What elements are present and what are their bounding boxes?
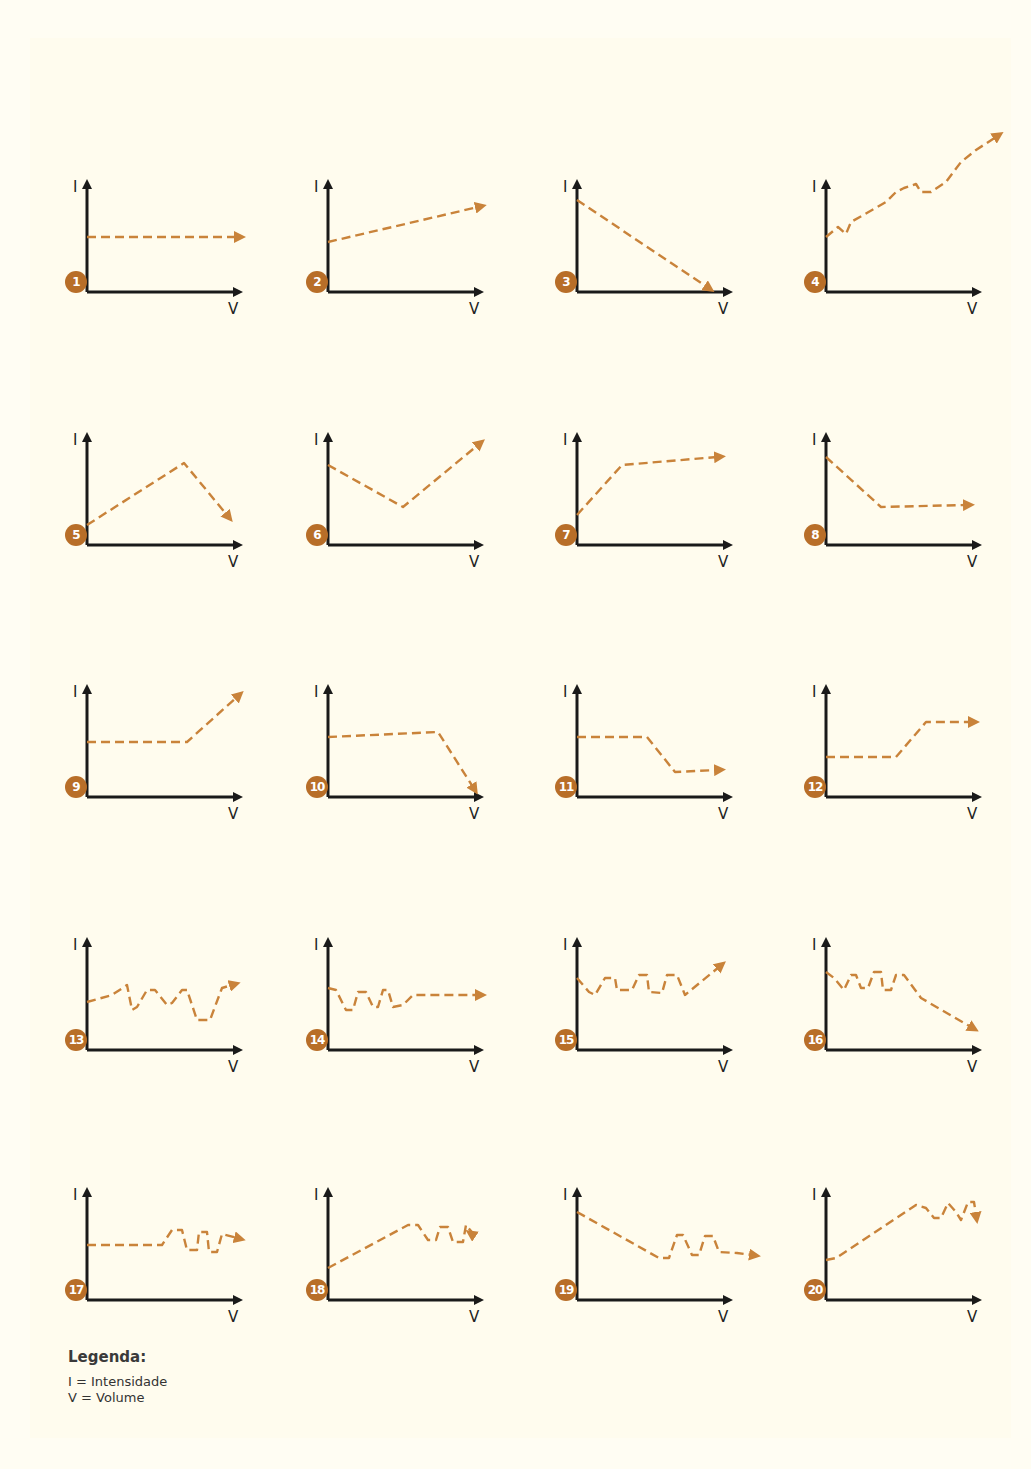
diagram-number-badge: 14: [306, 1029, 328, 1051]
diagram-panel-16: IV16: [786, 870, 1006, 1090]
intensity-curve: [328, 207, 478, 242]
diagram-number-badge: 12: [804, 776, 826, 798]
y-axis-label: I: [314, 938, 318, 953]
diagram-svg: [537, 112, 757, 332]
diagram-panel-2: IV2: [288, 112, 508, 332]
intensity-curve: [328, 988, 478, 1010]
diagram-panel-5: IV5: [47, 365, 267, 585]
legend: Legenda: I = Intensidade V = Volume: [68, 1348, 167, 1406]
y-axis-label: I: [73, 180, 77, 195]
diagram-number-badge: 1: [65, 271, 87, 293]
intensity-curve: [577, 1212, 752, 1258]
y-axis-label: I: [314, 685, 318, 700]
y-axis-label: I: [563, 433, 567, 448]
diagram-number-badge: 8: [804, 524, 826, 546]
x-axis-label: V: [967, 1060, 977, 1075]
y-axis-label: I: [314, 180, 318, 195]
diagram-number-badge: 18: [306, 1279, 328, 1301]
diagram-svg: [288, 365, 508, 585]
diagram-panel-14: IV14: [288, 870, 508, 1090]
diagram-number-badge: 7: [555, 524, 577, 546]
intensity-curve: [577, 457, 717, 515]
diagram-svg: [537, 365, 757, 585]
diagram-number-badge: 10: [306, 776, 328, 798]
y-axis-label: I: [73, 938, 77, 953]
diagram-panel-20: IV20: [786, 1120, 1006, 1340]
intensity-curve: [826, 457, 966, 507]
legend-item-volume: V = Volume: [68, 1390, 167, 1406]
x-axis-label: V: [469, 1060, 479, 1075]
diagram-panel-7: IV7: [537, 365, 757, 585]
legend-title: Legenda:: [68, 1348, 167, 1366]
y-axis-label: I: [73, 685, 77, 700]
intensity-curve: [577, 737, 717, 772]
y-axis-label: I: [73, 1188, 77, 1203]
intensity-curve: [577, 967, 719, 995]
x-axis-label: V: [967, 1310, 977, 1325]
diagram-number-badge: 3: [555, 271, 577, 293]
diagram-svg: [47, 870, 267, 1090]
y-axis-label: I: [812, 433, 816, 448]
x-axis-label: V: [228, 302, 238, 317]
diagram-panel-9: IV9: [47, 617, 267, 837]
diagram-svg: [288, 870, 508, 1090]
y-axis-label: I: [563, 1188, 567, 1203]
intensity-curve: [826, 972, 971, 1027]
diagram-svg: [786, 112, 1006, 332]
intensity-curve: [826, 722, 971, 757]
intensity-curve: [826, 1202, 976, 1260]
diagram-svg: [47, 1120, 267, 1340]
intensity-curve: [577, 200, 707, 287]
y-axis-label: I: [812, 938, 816, 953]
intensity-curve: [87, 697, 237, 742]
diagram-svg: [288, 1120, 508, 1340]
diagram-panel-6: IV6: [288, 365, 508, 585]
x-axis-label: V: [469, 807, 479, 822]
diagram-number-badge: 13: [65, 1029, 87, 1051]
diagram-number-badge: 15: [555, 1029, 577, 1051]
diagram-panel-3: IV3: [537, 112, 757, 332]
diagram-svg: [47, 617, 267, 837]
diagram-panel-17: IV17: [47, 1120, 267, 1340]
diagram-number-badge: 19: [555, 1279, 577, 1301]
y-axis-label: I: [314, 433, 318, 448]
diagram-svg: [47, 112, 267, 332]
x-axis-label: V: [967, 807, 977, 822]
intensity-curve: [826, 137, 996, 237]
diagram-number-badge: 16: [804, 1029, 826, 1051]
diagram-panel-13: IV13: [47, 870, 267, 1090]
intensity-curve: [328, 1225, 476, 1268]
x-axis-label: V: [228, 555, 238, 570]
diagram-panel-12: IV12: [786, 617, 1006, 837]
y-axis-label: I: [73, 433, 77, 448]
y-axis-label: I: [314, 1188, 318, 1203]
x-axis-label: V: [469, 302, 479, 317]
diagram-svg: [537, 870, 757, 1090]
x-axis-label: V: [718, 807, 728, 822]
y-axis-label: I: [812, 685, 816, 700]
x-axis-label: V: [469, 555, 479, 570]
y-axis-label: I: [563, 938, 567, 953]
diagram-number-badge: 4: [804, 271, 826, 293]
intensity-curve: [328, 732, 473, 787]
diagram-panel-18: IV18: [288, 1120, 508, 1340]
intensity-curve: [328, 445, 478, 507]
diagram-svg: [786, 365, 1006, 585]
diagram-svg: [786, 617, 1006, 837]
diagram-number-badge: 6: [306, 524, 328, 546]
x-axis-label: V: [718, 1060, 728, 1075]
diagram-number-badge: 9: [65, 776, 87, 798]
y-axis-label: I: [563, 180, 567, 195]
x-axis-label: V: [469, 1310, 479, 1325]
x-axis-label: V: [718, 1310, 728, 1325]
diagram-number-badge: 17: [65, 1279, 87, 1301]
diagram-panel-4: IV4: [786, 112, 1006, 332]
diagram-number-badge: 5: [65, 524, 87, 546]
y-axis-label: I: [812, 1188, 816, 1203]
y-axis-label: I: [563, 685, 567, 700]
diagram-number-badge: 20: [804, 1279, 826, 1301]
intensity-curve: [87, 1230, 237, 1252]
diagram-svg: [537, 1120, 757, 1340]
diagram-panel-19: IV19: [537, 1120, 757, 1340]
x-axis-label: V: [718, 302, 728, 317]
